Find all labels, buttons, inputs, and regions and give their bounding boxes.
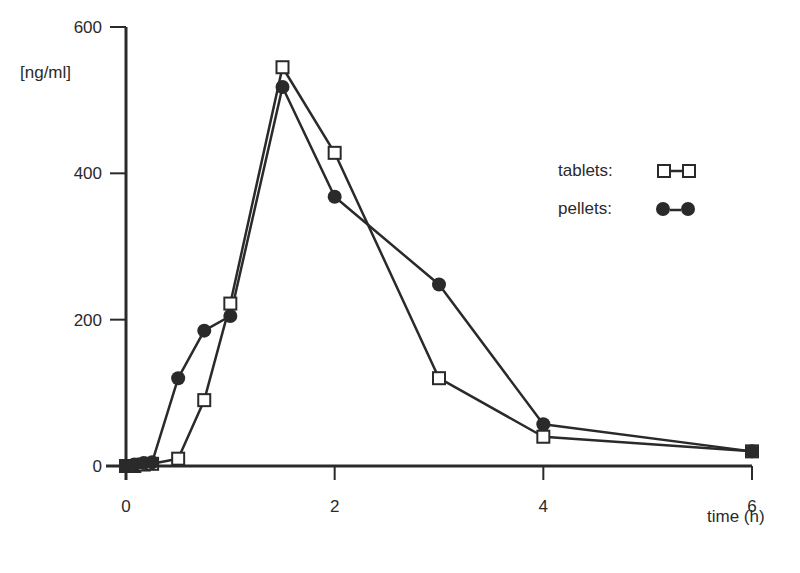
data-point-pellets xyxy=(171,371,185,385)
x-axis-label: time (h) xyxy=(707,507,765,526)
series-line-pellets xyxy=(126,87,752,466)
y-tick-label: 400 xyxy=(74,164,102,183)
data-point-tablets xyxy=(329,147,341,159)
legend-label-pellets: pellets: xyxy=(558,199,612,218)
data-point-tablets xyxy=(198,394,210,406)
pharmacokinetic-line-chart: 02004006000246 tablets: pellets: [ng/ml]… xyxy=(0,0,800,573)
data-point-pellets xyxy=(745,444,759,458)
data-point-tablets xyxy=(172,453,184,465)
data-point-tablets xyxy=(224,298,236,310)
series-line-tablets xyxy=(126,67,752,466)
legend: tablets: pellets: xyxy=(558,161,695,218)
y-tick-label: 0 xyxy=(93,457,102,476)
data-point-pellets xyxy=(328,190,342,204)
data-point-tablets xyxy=(537,431,549,443)
data-point-pellets xyxy=(145,455,159,469)
data-series xyxy=(119,61,759,473)
data-point-pellets xyxy=(276,80,290,94)
data-point-tablets xyxy=(277,61,289,73)
x-tick-label: 0 xyxy=(121,497,130,516)
legend-label-tablets: tablets: xyxy=(558,161,613,180)
x-tick-label: 4 xyxy=(539,497,548,516)
data-point-pellets xyxy=(432,278,446,292)
y-tick-label: 600 xyxy=(74,18,102,37)
open-square-marker-icon xyxy=(658,165,695,177)
x-tick-label: 2 xyxy=(330,497,339,516)
data-point-tablets xyxy=(433,372,445,384)
axes: 02004006000246 xyxy=(74,18,757,516)
data-point-pellets xyxy=(536,417,550,431)
y-tick-label: 200 xyxy=(74,311,102,330)
data-point-pellets xyxy=(197,324,211,338)
data-point-pellets xyxy=(223,309,237,323)
filled-circle-marker-icon xyxy=(656,202,695,216)
y-axis-label: [ng/ml] xyxy=(20,63,71,82)
